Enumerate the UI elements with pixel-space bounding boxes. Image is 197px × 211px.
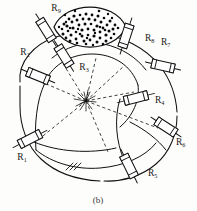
resistor-R5 [117, 147, 142, 185]
label-R7: R7 [161, 37, 170, 48]
label-R9: R9 [51, 3, 60, 14]
figure-container: R9 R8 R7 R2 R3 R4 R6 R1 [0, 0, 197, 211]
label-R5: R5 [148, 168, 157, 179]
label-R1: R1 [17, 152, 26, 163]
resistor-R2 [20, 65, 57, 87]
label-R2: R2 [20, 47, 29, 58]
label-R6: R6 [176, 137, 185, 148]
schematic-diagram: R9 R8 R7 R2 R3 R4 R6 R1 [0, 0, 197, 211]
radial-dashed-lines [38, 58, 158, 152]
center-starburst [74, 90, 96, 111]
speckled-lens [54, 7, 126, 47]
label-R4: R4 [155, 95, 164, 106]
outer-boundary [20, 33, 177, 181]
label-R3: R3 [79, 62, 88, 73]
resistor-R1 [11, 126, 49, 151]
resistor-R7 [144, 58, 181, 75]
label-R8: R8 [145, 33, 154, 44]
figure-caption: (b) [93, 195, 104, 205]
hatch-marks [66, 163, 81, 170]
